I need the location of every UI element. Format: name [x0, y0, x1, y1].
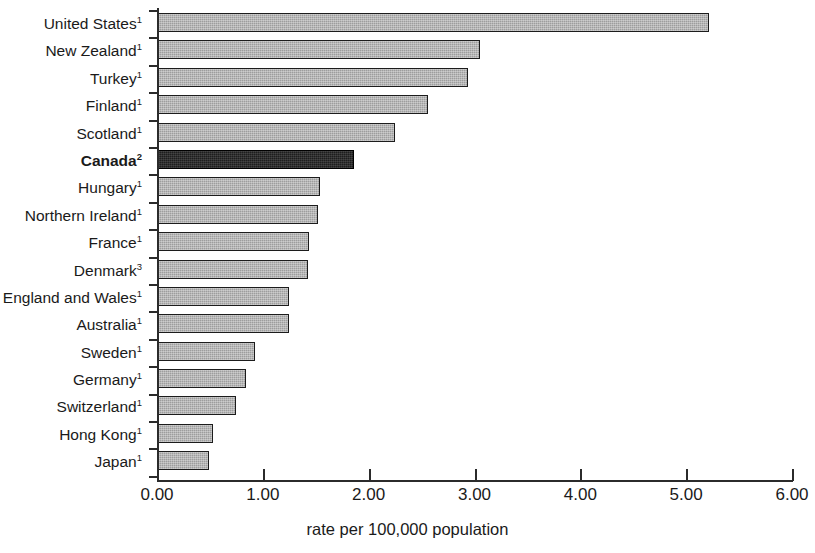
bar-hungary — [158, 177, 320, 196]
y-axis-tick — [149, 339, 158, 341]
x-axis-tick — [580, 469, 582, 481]
bar-england-and-wales — [158, 287, 289, 306]
bar-germany — [158, 369, 246, 388]
bar-finland — [158, 95, 428, 114]
x-axis-tick-label: 0.00 — [140, 485, 173, 505]
category-label-switzerland: Switzerland1 — [0, 393, 150, 420]
bar-row — [158, 257, 798, 284]
bar-row — [158, 421, 798, 448]
category-label-denmark: Denmark3 — [0, 257, 150, 284]
bar-turkey — [158, 68, 468, 87]
category-label-hungary: Hungary1 — [0, 174, 150, 201]
category-label-england-and-wales: England and Wales1 — [0, 284, 150, 311]
bar-france — [158, 232, 309, 251]
x-axis-tick — [263, 469, 265, 481]
y-axis-tick — [149, 202, 158, 204]
footnote-marker: 1 — [137, 178, 142, 189]
bar-row — [158, 366, 798, 393]
category-label-northern-ireland: Northern Ireland1 — [0, 202, 150, 229]
bar-new-zealand — [158, 40, 480, 59]
footnote-marker: 1 — [137, 452, 142, 463]
bar-row — [158, 229, 798, 256]
x-axis-tick — [157, 469, 159, 481]
bar-scotland — [158, 123, 395, 142]
bar-row — [158, 10, 798, 37]
footnote-marker: 1 — [137, 41, 142, 52]
y-axis-tick — [149, 174, 158, 176]
x-axis-tick-label: 1.00 — [246, 485, 279, 505]
category-label-scotland: Scotland1 — [0, 120, 150, 147]
y-axis-tick — [149, 257, 158, 259]
x-axis-tick-label: 6.00 — [775, 485, 808, 505]
footnote-marker: 1 — [137, 315, 142, 326]
bar-row — [158, 120, 798, 147]
bar-hong-kong — [158, 424, 213, 443]
footnote-marker: 1 — [137, 14, 142, 25]
y-axis-tick — [149, 37, 158, 39]
bar-row — [158, 37, 798, 64]
y-axis-tick — [149, 366, 158, 368]
footnote-marker: 2 — [137, 151, 142, 162]
bar-united-states — [158, 13, 709, 32]
category-label-new-zealand: New Zealand1 — [0, 37, 150, 64]
y-axis-tick — [149, 394, 158, 396]
x-axis-title: rate per 100,000 population — [0, 520, 815, 539]
category-label-canada: Canada2 — [0, 147, 150, 174]
x-axis-tick-label: 2.00 — [352, 485, 385, 505]
y-axis-tick — [149, 311, 158, 313]
category-label-united-states: United States1 — [0, 10, 150, 37]
y-axis-tick — [149, 284, 158, 286]
y-axis-tick — [149, 120, 158, 122]
bar-row — [158, 92, 798, 119]
x-axis-tick-label: 3.00 — [458, 485, 491, 505]
footnote-marker: 1 — [137, 206, 142, 217]
bar-chart-figure: United States1New Zealand1Turkey1Finland… — [0, 0, 815, 553]
bar-canada — [158, 150, 354, 169]
bar-denmark — [158, 260, 308, 279]
bar-row — [158, 448, 798, 475]
category-label-japan: Japan1 — [0, 448, 150, 475]
bar-row — [158, 393, 798, 420]
bar-switzerland — [158, 396, 236, 415]
plot-area: United States1New Zealand1Turkey1Finland… — [0, 0, 815, 553]
footnote-marker: 1 — [137, 370, 142, 381]
x-axis-tick — [369, 469, 371, 481]
x-axis-tick — [686, 469, 688, 481]
clipped-chart-title — [158, 0, 778, 6]
category-label-turkey: Turkey1 — [0, 65, 150, 92]
y-axis-tick — [149, 229, 158, 231]
bar-row — [158, 311, 798, 338]
category-label-sweden: Sweden1 — [0, 339, 150, 366]
bar-row — [158, 339, 798, 366]
bar-row — [158, 174, 798, 201]
bar-northern-ireland — [158, 205, 318, 224]
category-label-france: France1 — [0, 229, 150, 256]
bar-australia — [158, 314, 289, 333]
footnote-marker: 1 — [137, 233, 142, 244]
footnote-marker: 1 — [137, 69, 142, 80]
category-label-hong-kong: Hong Kong1 — [0, 421, 150, 448]
footnote-marker: 1 — [137, 397, 142, 408]
category-label-australia: Australia1 — [0, 311, 150, 338]
y-axis-tick — [149, 65, 158, 67]
footnote-marker: 3 — [137, 260, 142, 271]
x-axis-tick — [792, 469, 794, 481]
category-label-germany: Germany1 — [0, 366, 150, 393]
footnote-marker: 1 — [137, 123, 142, 134]
x-axis-tick-label: 4.00 — [564, 485, 597, 505]
x-axis-tick — [475, 469, 477, 481]
x-axis-tick-label: 5.00 — [670, 485, 703, 505]
bar-row — [158, 147, 798, 174]
bar-row — [158, 202, 798, 229]
y-axis-tick — [149, 92, 158, 94]
footnote-marker: 1 — [137, 425, 142, 436]
y-axis-tick — [149, 10, 158, 12]
footnote-marker: 1 — [137, 288, 142, 299]
y-axis-tick — [149, 147, 158, 149]
y-axis-line — [157, 8, 159, 481]
bar-row — [158, 284, 798, 311]
bars-container — [158, 10, 798, 478]
category-axis-labels: United States1New Zealand1Turkey1Finland… — [0, 10, 150, 478]
footnote-marker: 1 — [137, 96, 142, 107]
category-label-finland: Finland1 — [0, 92, 150, 119]
